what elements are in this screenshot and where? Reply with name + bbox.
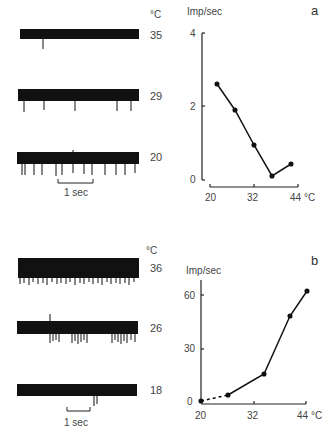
nerve-trace-a-35 bbox=[20, 29, 139, 49]
nerve-trace-a-20 bbox=[17, 150, 139, 176]
nerve-trace-b-26 bbox=[17, 314, 138, 344]
graph-a-line bbox=[215, 82, 293, 178]
nerve-trace-b-18 bbox=[17, 384, 137, 406]
nerve-trace-a-29 bbox=[18, 89, 139, 112]
graph-a-axes bbox=[202, 33, 298, 187]
figure-drawing bbox=[0, 0, 332, 434]
graph-b-line bbox=[199, 289, 309, 403]
nerve-trace-b-36 bbox=[18, 258, 139, 285]
scale-bar-a bbox=[58, 179, 93, 183]
scale-bar-b bbox=[67, 407, 90, 411]
graph-b-axes bbox=[201, 280, 306, 404]
